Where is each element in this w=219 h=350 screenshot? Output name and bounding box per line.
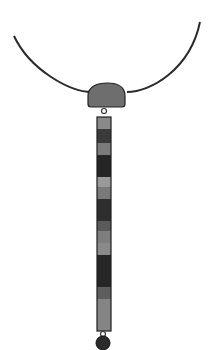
bar-segment [97, 287, 111, 299]
bar-segment [97, 221, 111, 231]
bar-segment [97, 243, 111, 255]
bar-segment [97, 199, 111, 221]
bar-segment [97, 187, 111, 199]
bar-segment [97, 299, 111, 331]
bar-segment [97, 177, 111, 187]
bar-segment [97, 155, 111, 177]
bar-segment [97, 143, 111, 155]
pendant-top-icon [88, 83, 125, 107]
bail-ring-top [102, 109, 107, 114]
bar-segments [97, 117, 111, 331]
bar-segment [97, 255, 111, 287]
disc-charm-icon [96, 336, 110, 350]
necklace-illustration [0, 0, 219, 350]
bar-segment [97, 231, 111, 243]
necklace-cord [14, 22, 200, 92]
bar-segment [97, 129, 111, 143]
bar-segment [97, 117, 111, 129]
